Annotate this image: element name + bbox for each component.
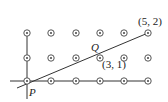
label-q: Q	[91, 41, 99, 53]
lattice-point-dot	[50, 32, 52, 34]
lattice-point-dot	[26, 80, 28, 82]
lattice-point-dot	[75, 32, 77, 34]
label-3-1: (3, 1)	[102, 58, 126, 71]
lattice-point-dot	[75, 80, 77, 82]
lattice-point-dot	[147, 32, 149, 34]
line-pq	[17, 33, 148, 88]
lattice-point-dot	[75, 57, 77, 59]
lattice-point-dot	[147, 57, 149, 59]
lattice-points	[24, 30, 151, 84]
lattice-diagram: P Q (3, 1) (5, 2)	[0, 0, 168, 102]
lattice-point-dot	[99, 32, 101, 34]
lattice-point-dot	[147, 80, 149, 82]
lattice-point-dot	[50, 57, 52, 59]
lattice-point-dot	[123, 32, 125, 34]
lattice-point-dot	[99, 80, 101, 82]
lattice-point-dot	[99, 57, 101, 59]
label-p: P	[28, 86, 36, 98]
lattice-point-dot	[123, 80, 125, 82]
label-5-2: (5, 2)	[138, 15, 162, 28]
lattice-point-dot	[50, 80, 52, 82]
lattice-point-dot	[26, 57, 28, 59]
lattice-point-dot	[26, 32, 28, 34]
